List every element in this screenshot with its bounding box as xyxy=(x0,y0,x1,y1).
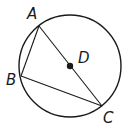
label-a: A xyxy=(26,5,37,23)
label-d: D xyxy=(78,49,90,67)
center-point-d xyxy=(67,63,73,69)
label-b: B xyxy=(6,71,16,89)
label-c: C xyxy=(103,109,114,127)
circle-geometry-diagram: A B C D xyxy=(0,0,138,134)
